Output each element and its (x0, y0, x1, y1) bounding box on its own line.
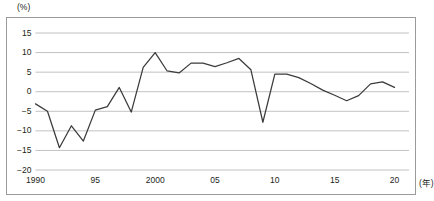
y-axis-tick-label: −5 (10, 107, 32, 116)
x-axis-tick-label: 1990 (26, 176, 45, 185)
x-axis-tick-label: 95 (91, 176, 100, 185)
x-axis-tick-label: 2000 (146, 176, 165, 185)
y-axis-tick-label: 5 (10, 68, 32, 77)
y-axis-tick-label: 0 (10, 87, 32, 96)
x-axis-tick-label: 15 (330, 176, 339, 185)
data-series-group (36, 53, 395, 148)
y-axis-tick-label: 10 (10, 48, 32, 57)
y-axis-tick-label: −10 (10, 126, 32, 135)
data-line (36, 53, 395, 148)
y-axis-tick-label: −15 (10, 146, 32, 155)
gridlines-group (36, 33, 410, 170)
x-axis-tick-label: 10 (270, 176, 279, 185)
y-axis-tick-label: −20 (10, 166, 32, 175)
x-axis-tick-label: 20 (390, 176, 399, 185)
y-axis-tick-label: 15 (10, 29, 32, 38)
x-axis-tick-label: 05 (210, 176, 219, 185)
